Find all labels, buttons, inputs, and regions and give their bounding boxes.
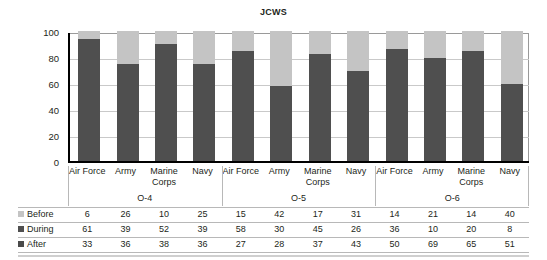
bar-segment-before-7[interactable]: [347, 31, 369, 71]
x-category-label-3: Navy: [183, 166, 221, 177]
bar-segment-before-11[interactable]: [501, 31, 523, 84]
bar-segment-dark-8[interactable]: [386, 49, 408, 161]
group-label-band: O-4O-5O-6: [68, 192, 529, 206]
bar-6[interactable]: [309, 31, 331, 161]
bar-segment-before-9[interactable]: [424, 31, 446, 58]
bar-11[interactable]: [501, 31, 523, 161]
table-cell: 38: [145, 237, 183, 252]
bar-segment-dark-7[interactable]: [347, 71, 369, 161]
bar-segment-before-2[interactable]: [155, 31, 177, 44]
y-tick-80: 80: [0, 54, 59, 64]
y-tick-20: 20: [0, 132, 59, 142]
bar-segment-before-6[interactable]: [309, 31, 331, 54]
plot-right-border: [528, 33, 529, 161]
bar-3[interactable]: [193, 31, 215, 161]
x-group-label-O-6: O-6: [375, 192, 529, 204]
table-cell: 21: [414, 207, 452, 222]
table-cell: 17: [299, 207, 337, 222]
bar-segment-before-0[interactable]: [78, 31, 100, 39]
table-cell: 28: [260, 237, 298, 252]
bar-segment-dark-2[interactable]: [155, 44, 177, 161]
x-category-label-0: Air Force: [68, 166, 106, 177]
bar-segment-dark-0[interactable]: [78, 39, 100, 161]
bar-4[interactable]: [232, 31, 254, 161]
grid-line-80: [70, 59, 529, 60]
legend-item-after[interactable]: After: [18, 237, 68, 252]
bar-segment-dark-3[interactable]: [193, 64, 215, 162]
chart-title: JCWS: [0, 7, 547, 17]
bar-8[interactable]: [386, 31, 408, 161]
bar-segment-dark-9[interactable]: [424, 58, 446, 161]
y-tick-100: 100: [0, 28, 59, 38]
table-row: During61395239583045263610208: [18, 222, 529, 237]
x-category-label-7: Navy: [337, 166, 375, 177]
bar-segment-before-1[interactable]: [117, 31, 139, 64]
bar-segment-dark-11[interactable]: [501, 84, 523, 161]
table-cell: 39: [183, 222, 221, 237]
table-cell: 26: [106, 207, 144, 222]
bar-5[interactable]: [270, 31, 292, 161]
bar-7[interactable]: [347, 31, 369, 161]
table-cell: 51: [491, 237, 529, 252]
table-cell: 45: [299, 222, 337, 237]
legend-item-before[interactable]: Before: [18, 207, 68, 222]
bar-1[interactable]: [117, 31, 139, 161]
grid-line-40: [70, 111, 529, 112]
legend-item-during[interactable]: During: [18, 222, 68, 237]
bar-2[interactable]: [155, 31, 177, 161]
legend-label: During: [27, 224, 54, 234]
table-cell: 50: [375, 237, 413, 252]
table-cell: 69: [414, 237, 452, 252]
table-cell: 37: [299, 237, 337, 252]
bar-segment-dark-6[interactable]: [309, 54, 331, 161]
bar-segment-before-4[interactable]: [232, 31, 254, 51]
table-cell: 6: [68, 207, 106, 222]
table-cell: 10: [145, 207, 183, 222]
x-category-label-11: Navy: [491, 166, 529, 177]
x-category-label-5: Army: [260, 166, 298, 177]
y-tick-60: 60: [0, 80, 59, 90]
bar-segment-before-3[interactable]: [193, 31, 215, 64]
group-divider-1: [222, 166, 223, 206]
y-tick-40: 40: [0, 106, 59, 116]
table-cell: 27: [222, 237, 260, 252]
group-divider-2: [375, 166, 376, 206]
table-cell: 36: [375, 222, 413, 237]
table-row: After333638362728374350696551: [18, 237, 529, 252]
table-cell: 40: [491, 207, 529, 222]
x-category-label-1: Army: [106, 166, 144, 177]
y-axis-tick-labels: 100806040200: [0, 33, 64, 163]
x-category-label-6: Marine Corps: [299, 166, 337, 188]
x-group-label-O-5: O-5: [222, 192, 376, 204]
table-cell: 52: [145, 222, 183, 237]
table-cell: 10: [414, 222, 452, 237]
table-cell: 14: [452, 207, 490, 222]
legend-label: Before: [27, 209, 54, 219]
bar-10[interactable]: [462, 31, 484, 161]
table-cell: 42: [260, 207, 298, 222]
table-cell: 8: [491, 222, 529, 237]
table-cell: 36: [106, 237, 144, 252]
data-table: Before62610251542173114211440During61395…: [18, 207, 529, 255]
x-category-label-2: Marine Corps: [145, 166, 183, 188]
bar-segment-before-10[interactable]: [462, 31, 484, 51]
table-cell: 15: [222, 207, 260, 222]
table-cell: 33: [68, 237, 106, 252]
table-cell: 39: [106, 222, 144, 237]
bar-9[interactable]: [424, 31, 446, 161]
bar-segment-before-8[interactable]: [386, 31, 408, 49]
plot-area: [68, 33, 529, 163]
table-cell: 65: [452, 237, 490, 252]
grid-line-60: [70, 85, 529, 86]
bar-segment-before-5[interactable]: [270, 31, 292, 86]
bar-segment-dark-10[interactable]: [462, 51, 484, 162]
bar-0[interactable]: [78, 31, 100, 161]
bar-segment-dark-4[interactable]: [232, 51, 254, 162]
bar-segment-dark-1[interactable]: [117, 64, 139, 162]
table-cell: 31: [337, 207, 375, 222]
bar-segment-dark-5[interactable]: [270, 86, 292, 161]
table-cell: 36: [183, 237, 221, 252]
x-category-label-10: Marine Corps: [452, 166, 490, 188]
table-cell: 43: [337, 237, 375, 252]
table-cell: 26: [337, 222, 375, 237]
